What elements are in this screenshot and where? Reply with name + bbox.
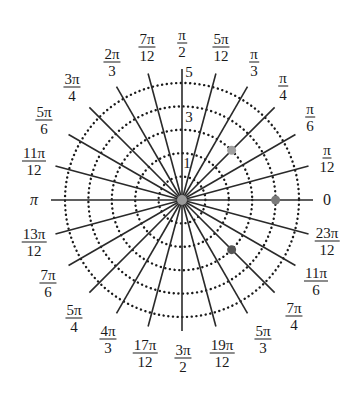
- angle-label: 11π6: [304, 266, 328, 297]
- radial-line-345deg: [182, 200, 309, 234]
- angle-label: 7π6: [39, 268, 56, 299]
- angle-label-numerator: 4π: [99, 324, 116, 340]
- angle-label-denominator: 12: [214, 354, 229, 369]
- angle-label: 13π12: [22, 227, 47, 258]
- angle-label: 0: [323, 193, 331, 207]
- angle-label-denominator: 12: [319, 242, 334, 257]
- angle-label-numerator: 5π: [35, 105, 52, 121]
- angle-label: 5π12: [212, 32, 229, 63]
- angle-label-denominator: 6: [40, 121, 48, 136]
- angle-label-numerator: 3π: [63, 72, 80, 88]
- angle-label-denominator: 4: [279, 87, 287, 102]
- plotted-point: [271, 196, 280, 205]
- angle-label: π2: [177, 28, 187, 59]
- angle-label-denominator: 2: [178, 44, 186, 59]
- angle-label-numerator: 5π: [65, 303, 82, 319]
- angle-label: 17π12: [133, 338, 158, 369]
- angle-label-denominator: 12: [26, 243, 41, 258]
- angle-label-numerator: 23π: [315, 226, 340, 242]
- angle-label-denominator: 3: [250, 63, 258, 78]
- radial-line-15deg: [182, 166, 309, 200]
- angle-label-numerator: π: [278, 71, 288, 87]
- angle-label: 3π4: [63, 72, 80, 103]
- polar-coordinate-grid: [0, 0, 354, 393]
- angle-label-numerator: 7π: [138, 32, 155, 48]
- plotted-point: [227, 245, 236, 254]
- angle-label: 4π3: [99, 324, 116, 355]
- angle-label-numerator: 19π: [210, 338, 235, 354]
- ring-label: 3: [185, 109, 193, 126]
- radial-line-75deg: [182, 73, 216, 200]
- angle-label-numerator: π: [322, 143, 332, 159]
- angle-label-denominator: 4: [68, 88, 76, 103]
- angle-label-denominator: 12: [139, 48, 154, 63]
- angle-label: 7π4: [285, 301, 302, 332]
- angle-label: 5π4: [65, 303, 82, 334]
- angle-label: 3π2: [174, 343, 191, 374]
- angle-label-numerator: 7π: [39, 268, 56, 284]
- angle-label: 5π3: [254, 324, 271, 355]
- angle-label-denominator: 3: [108, 63, 116, 78]
- angle-label-denominator: 12: [27, 162, 42, 177]
- angle-label-numerator: 13π: [22, 227, 47, 243]
- angle-label-denominator: 6: [306, 118, 314, 133]
- angle-label-denominator: 12: [137, 354, 152, 369]
- angle-label: π6: [305, 102, 315, 133]
- angle-label-denominator: 4: [70, 319, 78, 334]
- angle-label-denominator: 3: [259, 340, 267, 355]
- angle-label-numerator: 17π: [133, 338, 158, 354]
- angle-label: π4: [278, 71, 288, 102]
- angle-label-numerator: π: [177, 28, 187, 44]
- angle-label: π12: [320, 143, 335, 174]
- angle-label-denominator: 6: [44, 284, 52, 299]
- angle-label: π3: [249, 47, 259, 78]
- angle-label-numerator: 11π: [304, 266, 328, 282]
- angle-label-denominator: 12: [213, 48, 228, 63]
- angle-label-denominator: 6: [312, 282, 320, 297]
- angle-label: 19π12: [210, 338, 235, 369]
- angle-label-numerator: 11π: [22, 146, 46, 162]
- angle-label-numerator: π: [249, 47, 259, 63]
- angle-label-denominator: 2: [179, 359, 187, 374]
- angle-label: 11π12: [22, 146, 46, 177]
- angle-label-denominator: 3: [104, 340, 112, 355]
- angle-label-numerator: 5π: [254, 324, 271, 340]
- angle-label-numerator: 2π: [103, 47, 120, 63]
- angle-label: 7π12: [138, 32, 155, 63]
- angle-label: 5π6: [35, 105, 52, 136]
- angle-label: 23π12: [315, 226, 340, 257]
- angle-label-numerator: 5π: [212, 32, 229, 48]
- angle-label-numerator: π: [305, 102, 315, 118]
- angle-label-numerator: 3π: [174, 343, 191, 359]
- pole-point: [177, 195, 187, 205]
- ring-label: 5: [185, 64, 193, 81]
- ring-label: 1: [183, 155, 191, 172]
- angle-label-denominator: 12: [320, 159, 335, 174]
- plotted-point: [227, 146, 236, 155]
- angle-label: 2π3: [103, 47, 120, 78]
- angle-label-denominator: 4: [290, 317, 298, 332]
- radial-line-195deg: [55, 200, 182, 234]
- angle-label-numerator: 7π: [285, 301, 302, 317]
- angle-label: π: [30, 193, 38, 207]
